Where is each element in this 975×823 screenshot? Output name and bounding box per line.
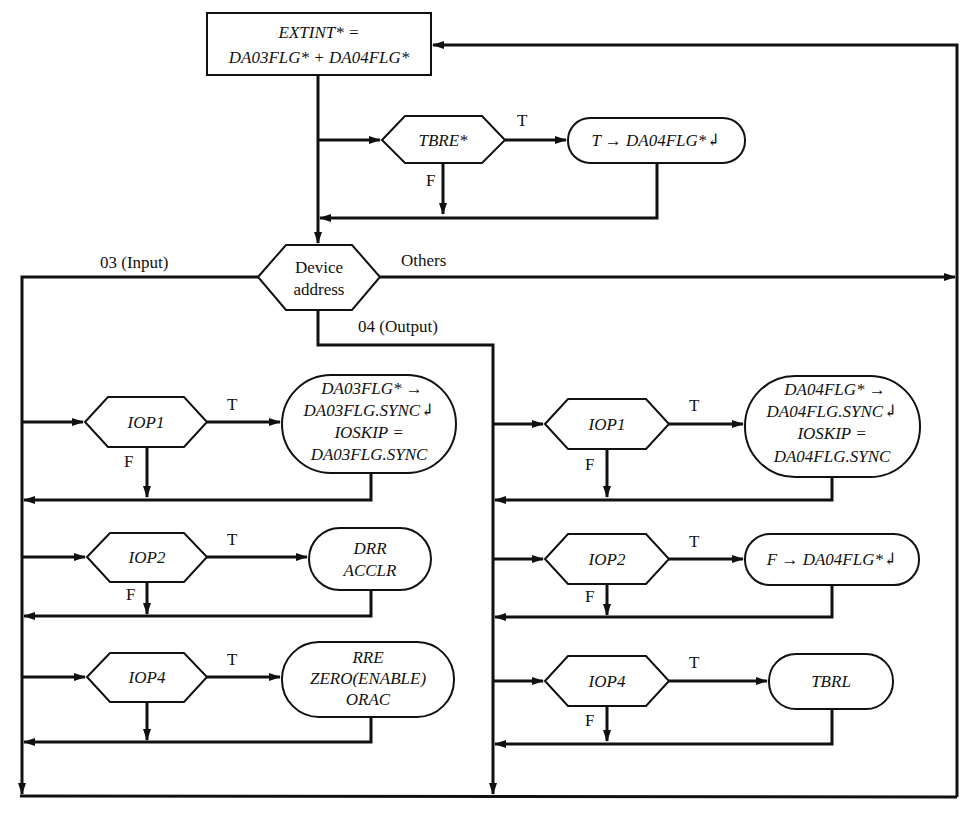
input-iop4-decision: IOP4 — [87, 653, 207, 702]
output-iop1-merge-connector — [495, 477, 832, 500]
output-iop1-true-label: T — [689, 396, 700, 415]
start-box-line1: EXTINT* = — [278, 23, 360, 42]
input-iop1-true-label: T — [227, 395, 238, 414]
device-address-decision: Device address — [258, 245, 380, 310]
input-iop4-action: RRE ZERO(ENABLE) ORAC — [282, 642, 454, 717]
output-iop1-action-line4: DA04FLG.SYNC — [773, 447, 891, 466]
output-iop4-condition: IOP4 — [588, 672, 626, 691]
input-iop1-false-label: F — [124, 452, 133, 471]
bottom-collector-connector — [20, 796, 957, 797]
output-iop2-condition: IOP2 — [588, 550, 626, 569]
input-iop2-condition: IOP2 — [128, 548, 166, 567]
output-iop1-decision: IOP1 — [545, 399, 669, 449]
input-iop4-true-label: T — [227, 650, 238, 669]
output-iop1-condition: IOP1 — [588, 415, 626, 434]
start-box-line2: DA03FLG* + DA04FLG* — [228, 48, 410, 67]
input-iop4-action-line2: ZERO(ENABLE) — [310, 669, 426, 688]
output-iop4-action: TBRL — [769, 654, 893, 709]
output-iop1-action-line3: IOSKIP = — [796, 424, 866, 443]
device-address-line1: Device — [295, 258, 343, 277]
input-iop1-action-line1: DA03FLG* → — [320, 379, 423, 398]
output-iop1-action-line1: DA04FLG* → — [783, 380, 886, 399]
input-iop1-action: DA03FLG* → DA03FLG.SYNC↲ IOSKIP = DA03FL… — [282, 375, 456, 473]
output-iop2-action: F → DA04FLG*↲ — [745, 534, 919, 585]
output-iop4-true-label: T — [689, 653, 700, 672]
output-iop1-action: DA04FLG* → DA04FLG.SYNC↲ IOSKIP = DA04FL… — [745, 376, 920, 477]
output-iop4-action-line1: TBRL — [811, 672, 851, 691]
tbre-condition: TBRE* — [418, 131, 468, 150]
output-iop2-merge-connector — [495, 585, 832, 617]
input-iop1-merge-connector — [24, 473, 371, 500]
tbre-true-label: T — [517, 111, 528, 130]
input-iop2-merge-connector — [24, 590, 371, 616]
output-iop2-true-label: T — [689, 532, 700, 551]
output-iop4-decision: IOP4 — [545, 656, 669, 706]
branch-others-label: Others — [401, 251, 446, 270]
input-iop4-condition: IOP4 — [128, 668, 166, 687]
branch-output-label: 04 (Output) — [358, 317, 438, 336]
input-iop1-action-line4: DA03FLG.SYNC — [310, 445, 428, 464]
input-iop4-action-line1: RRE — [351, 648, 384, 667]
input-iop2-false-label: F — [126, 585, 135, 604]
branch-input-label: 03 (Input) — [100, 253, 168, 272]
input-iop2-action: DRR ACCLR — [309, 528, 431, 590]
output-iop2-decision: IOP2 — [545, 534, 669, 584]
output-iop1-false-label: F — [585, 455, 594, 474]
input-iop1-condition: IOP1 — [127, 413, 165, 432]
tbre-merge-connector — [320, 163, 657, 218]
input-iop4-action-line3: ORAC — [346, 690, 391, 709]
input-iop1-action-line2: DA03FLG.SYNC↲ — [303, 401, 435, 420]
device-address-line2: address — [294, 280, 345, 299]
tbre-true-action: T → DA04FLG*↲ — [568, 118, 745, 163]
output-iop4-merge-connector — [495, 709, 832, 744]
output-iop1-action-line2: DA04FLG.SYNC↲ — [766, 402, 898, 421]
input-iop2-action-line2: ACCLR — [343, 561, 398, 580]
tbre-false-label: F — [426, 171, 435, 190]
input-iop2-action-line1: DRR — [352, 539, 387, 558]
output-iop2-false-label: F — [585, 587, 594, 606]
start-box: EXTINT* = DA03FLG* + DA04FLG* — [207, 13, 431, 75]
input-iop4-merge-connector — [24, 717, 371, 742]
tbre-true-action-text: T → DA04FLG*↲ — [591, 131, 720, 150]
input-iop2-decision: IOP2 — [87, 533, 207, 582]
output-iop4-false-label: F — [585, 711, 594, 730]
input-iop1-decision: IOP1 — [85, 397, 207, 447]
output-iop2-action-line1: F → DA04FLG*↲ — [766, 550, 897, 569]
flowchart: EXTINT* = DA03FLG* + DA04FLG* TBRE* T T … — [0, 0, 975, 823]
input-iop2-true-label: T — [227, 530, 238, 549]
tbre-decision: TBRE* — [382, 116, 505, 163]
input-iop1-action-line3: IOSKIP = — [333, 423, 403, 442]
